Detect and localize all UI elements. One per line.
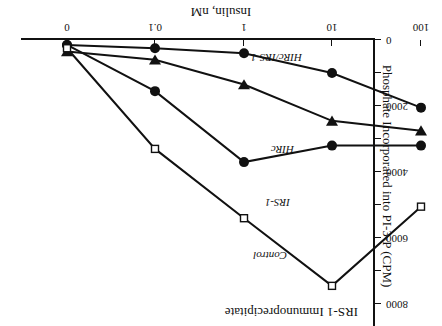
series-label-control: Control [253,250,287,262]
plot-area: IRS-1 Immunoprecipitate 100 10 1 0.1 0 0… [0,0,442,326]
data-point [241,215,248,222]
series-line [67,45,421,162]
series-label-hirc-irs1: HIRc/IRS-1 [251,52,302,64]
data-point [150,86,160,96]
data-point [329,282,336,289]
series-irs-1 [61,46,427,135]
data-point [239,157,249,167]
data-point [152,145,159,152]
data-point [150,43,160,53]
data-point [416,141,426,151]
data-point [64,45,71,52]
series-line [67,52,421,131]
data-point [418,203,425,210]
data-point [239,48,249,58]
data-point [327,68,337,78]
data-point [327,141,337,151]
series-label-hirc: HIRc [271,144,294,156]
data-point [416,103,426,113]
series-label-irs1: IRS-1 [265,197,290,209]
series-layer [0,0,442,326]
figure-rotator: IRS-1 Immunoprecipitate 100 10 1 0.1 0 0… [0,0,442,326]
series-control [62,40,426,113]
